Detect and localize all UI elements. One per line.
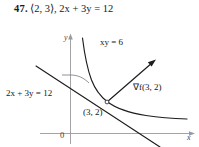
point-label: (3, 2) (83, 107, 103, 117)
gradient-label: ∇f(3, 2) (133, 82, 162, 92)
graph-figure: xy = 6 2x + 3y = 12 ∇f(3, 2) (3, 2) y x … (0, 16, 199, 147)
problem-expression: ⟨2, 3⟩, 2x + 3y = 12 (30, 3, 113, 14)
curve-label-xy6: xy = 6 (100, 37, 123, 47)
x-axis-label: x (187, 133, 191, 142)
graph-canvas (0, 16, 199, 147)
figure-page: 47. ⟨2, 3⟩, 2x + 3y = 12 (0, 0, 199, 147)
line-label-leader (62, 75, 89, 83)
line-label-equation: 2x + 3y = 12 (6, 88, 52, 98)
origin-label: 0 (60, 130, 64, 140)
tangency-point-marker (105, 100, 109, 104)
problem-statement: 47. ⟨2, 3⟩, 2x + 3y = 12 (14, 3, 113, 15)
gradient-vector (107, 60, 156, 103)
y-axis-label: y (64, 33, 68, 42)
problem-number: 47. (14, 3, 28, 14)
